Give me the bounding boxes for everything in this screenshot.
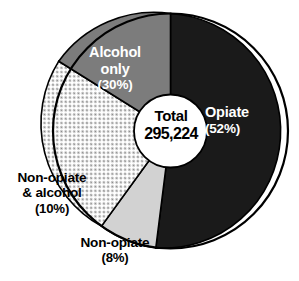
slice-label-non-opiate-and-alcohol-line1: Non-opiate: [18, 170, 87, 185]
slice-label-non-opiate-and-alcohol-line2: & alcohol: [22, 185, 81, 200]
slice-label-opiate-text: Opiate: [205, 104, 249, 120]
slice-percent-non-opiate-and-alcohol: (10%): [0, 201, 105, 216]
total-readout: Total 295,224: [135, 108, 207, 143]
slice-label-alcohol-only-line2: only: [100, 61, 129, 77]
slice-label-non-opiate-and-alcohol: Non-opiate & alcohol (10%): [0, 170, 105, 216]
total-value: 295,224: [135, 125, 207, 143]
total-label: Total: [154, 107, 187, 124]
slice-percent-non-opiate: (8%): [62, 250, 168, 265]
slice-label-non-opiate: Non-opiate (8%): [62, 235, 168, 266]
slice-label-alcohol-only: Alcohol only (30%): [74, 44, 156, 92]
slice-label-opiate: Opiate (52%): [205, 104, 281, 136]
slice-percent-alcohol-only: (30%): [74, 77, 156, 92]
pie-chart: Total 295,224 Alcohol only (30%) Opiate …: [0, 0, 299, 281]
slice-label-alcohol-only-line1: Alcohol: [89, 44, 141, 60]
slice-label-non-opiate-text: Non-opiate: [81, 235, 150, 250]
slice-percent-opiate: (52%): [205, 121, 281, 136]
